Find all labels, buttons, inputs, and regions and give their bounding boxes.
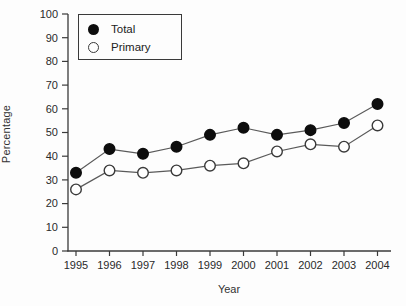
y-tick-label: 40 xyxy=(46,150,58,162)
x-tick-label: 2003 xyxy=(332,259,356,271)
data-point-total-2001 xyxy=(272,130,283,141)
data-point-primary-1996 xyxy=(104,165,115,176)
data-point-primary-1997 xyxy=(138,167,149,178)
y-tick-label: 100 xyxy=(40,8,58,20)
data-point-total-2004 xyxy=(372,99,383,110)
x-tick-label: 2002 xyxy=(298,259,322,271)
data-point-total-1996 xyxy=(104,144,115,155)
y-axis-title: Percentage xyxy=(0,97,12,171)
data-point-primary-2003 xyxy=(339,141,350,152)
data-point-total-2003 xyxy=(339,118,350,129)
x-axis-title: Year xyxy=(196,283,262,295)
data-point-total-1995 xyxy=(71,167,82,178)
y-tick-label: 50 xyxy=(46,126,58,138)
data-point-primary-2000 xyxy=(238,158,249,169)
data-point-primary-1995 xyxy=(71,184,82,195)
y-tick-label: 70 xyxy=(46,79,58,91)
line-chart-figure: 0102030405060708090100199519961997199819… xyxy=(0,0,406,306)
y-tick-label: 80 xyxy=(46,55,58,67)
y-tick-label: 20 xyxy=(46,197,58,209)
data-point-primary-2001 xyxy=(272,146,283,157)
data-point-primary-1998 xyxy=(171,165,182,176)
x-tick-label: 1995 xyxy=(64,259,88,271)
legend-item-total: Total xyxy=(88,20,181,38)
data-point-primary-2004 xyxy=(372,120,383,131)
filled-circle-icon xyxy=(88,24,99,35)
x-tick-label: 2004 xyxy=(365,259,389,271)
series-line-primary xyxy=(76,125,378,189)
data-point-total-1997 xyxy=(138,149,149,160)
y-tick-label: 60 xyxy=(46,103,58,115)
x-tick-label: 2001 xyxy=(265,259,289,271)
x-tick-label: 1997 xyxy=(131,259,155,271)
data-point-primary-1999 xyxy=(205,160,216,171)
data-point-primary-2002 xyxy=(305,139,316,150)
data-point-total-1998 xyxy=(171,141,182,152)
data-point-total-2002 xyxy=(305,125,316,136)
x-tick-label: 1999 xyxy=(198,259,222,271)
data-point-total-1999 xyxy=(205,130,216,141)
chart-canvas: 0102030405060708090100199519961997199819… xyxy=(0,0,406,306)
x-tick-label: 1998 xyxy=(164,259,188,271)
y-tick-label: 0 xyxy=(52,245,58,257)
x-tick-label: 1996 xyxy=(97,259,121,271)
legend-item-primary: Primary xyxy=(88,38,181,56)
legend: Total Primary xyxy=(78,14,182,60)
y-tick-label: 10 xyxy=(46,221,58,233)
y-tick-label: 90 xyxy=(46,32,58,44)
series-line-total xyxy=(76,104,378,173)
open-circle-icon xyxy=(88,42,99,53)
x-tick-label: 2000 xyxy=(231,259,255,271)
data-point-total-2000 xyxy=(238,122,249,133)
legend-label-primary: Primary xyxy=(111,41,151,53)
y-tick-label: 30 xyxy=(46,174,58,186)
legend-label-total: Total xyxy=(111,23,135,35)
